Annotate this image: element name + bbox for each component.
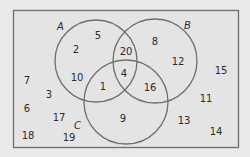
element-number: 17 [53, 112, 66, 123]
element-number: 4 [121, 68, 127, 79]
element-number: 6 [24, 103, 30, 114]
element-number: 18 [22, 130, 35, 141]
element-number: 16 [144, 82, 157, 93]
element-number: 5 [95, 30, 101, 41]
element-number: 12 [172, 56, 185, 67]
element-number: 14 [210, 126, 223, 137]
element-number: 20 [120, 46, 133, 57]
element-number: 15 [215, 65, 228, 76]
element-number: 8 [152, 36, 158, 47]
element-number: 13 [178, 115, 191, 126]
element-number: 19 [63, 132, 76, 143]
element-number: 3 [46, 89, 52, 100]
venn-diagram: ABC 5210208124116973617181915111314 [0, 0, 250, 157]
set-label-b: B [184, 20, 191, 31]
element-number: 10 [71, 72, 84, 83]
element-number: 7 [24, 75, 30, 86]
set-label-a: A [56, 21, 64, 32]
element-number: 9 [120, 113, 126, 124]
set-label-c: C [74, 120, 81, 131]
element-number: 1 [100, 81, 106, 92]
element-number: 11 [200, 93, 213, 104]
element-number: 2 [73, 44, 79, 55]
